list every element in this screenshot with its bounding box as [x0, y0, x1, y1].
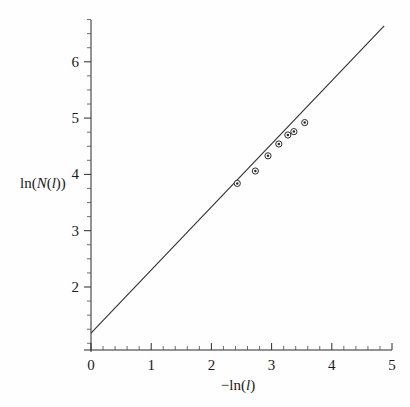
- x-tick-label: 0: [87, 357, 95, 373]
- x-title-minus: −: [221, 377, 229, 393]
- y-tick-label: 3: [72, 223, 80, 239]
- scatter-plot: 23456 012345 ln(N(l)) −ln(l): [0, 0, 410, 407]
- svg-text:ln(N(l)): ln(N(l)): [20, 175, 66, 192]
- data-point: [265, 153, 271, 159]
- data-point: [234, 180, 240, 186]
- y-axis-title: ln(N(l)): [20, 175, 66, 192]
- x-axis-title: −ln(l): [221, 377, 255, 394]
- x-title-fn: ln(: [229, 377, 246, 394]
- figure-panel: 23456 012345 ln(N(l)) −ln(l): [0, 0, 410, 407]
- x-title-close: ): [250, 377, 255, 394]
- data-point-center: [254, 170, 257, 173]
- data-point: [285, 132, 291, 138]
- y-title-close: )): [56, 175, 66, 192]
- y-tick-label: 2: [72, 279, 80, 295]
- data-point-center: [293, 130, 296, 133]
- y-title-fn: ln(: [20, 175, 37, 192]
- x-tick-label: 1: [147, 357, 155, 373]
- data-point-center: [287, 134, 290, 137]
- x-tick-label: 4: [328, 357, 336, 373]
- plot-background: [0, 0, 410, 407]
- data-point: [276, 141, 282, 147]
- y-tick-label: 5: [72, 110, 80, 126]
- svg-text:−ln(l): −ln(l): [221, 377, 255, 394]
- data-point-center: [236, 182, 239, 185]
- y-tick-label: 6: [72, 54, 80, 70]
- data-point: [291, 129, 297, 135]
- data-point: [252, 168, 258, 174]
- x-tick-label: 2: [208, 357, 216, 373]
- data-point: [302, 120, 308, 126]
- data-point-center: [278, 143, 281, 146]
- data-point-center: [267, 155, 270, 158]
- y-tick-label: 4: [72, 166, 80, 182]
- x-tick-label: 5: [388, 357, 396, 373]
- data-point-center: [303, 121, 306, 124]
- x-tick-label: 3: [268, 357, 276, 373]
